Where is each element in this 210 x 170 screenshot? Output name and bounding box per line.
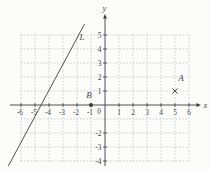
x-tick-label: -2 [73,108,79,117]
point-label-B: B [86,90,92,100]
y-tick-label: 1 [98,87,102,96]
y-tick-label: -4 [95,157,101,166]
y-axis-label: y [102,3,107,13]
x-tick-label: 2 [131,108,135,117]
x-tick-label: -5 [31,108,37,117]
y-tick-label: -2 [95,129,101,138]
x-tick-label: -1 [87,108,93,117]
x-tick-label: 1 [117,108,121,117]
x-tick-label: 3 [145,108,149,117]
point-B-dot-marker [89,103,93,107]
graph-svg: -6-5-4-3-2-112345654321-2-3-40xyLAB [0,0,210,170]
coordinate-plane-figure: -6-5-4-3-2-112345654321-2-3-40xyLAB [0,0,210,170]
origin-label: 0 [97,107,101,116]
x-axis-label: x [203,100,208,110]
x-tick-label: -3 [59,108,65,117]
x-tick-label: 5 [173,108,177,117]
x-tick-label: -4 [45,108,51,117]
line-label-L: L [79,32,85,42]
y-tick-label: 3 [98,59,102,68]
y-tick-label: 5 [98,31,102,40]
y-tick-label: 2 [98,73,102,82]
x-tick-label: 6 [187,108,191,117]
point-label-A: A [177,73,184,83]
y-tick-label: 4 [98,45,102,54]
y-tick-label: -3 [95,143,101,152]
x-tick-label: 4 [159,108,163,117]
x-tick-label: -6 [17,108,23,117]
